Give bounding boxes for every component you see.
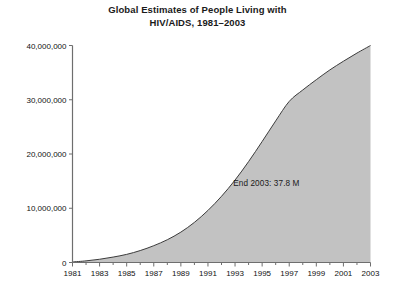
y-axis-tick-label: 40,000,000: [26, 41, 66, 50]
area-series-group: [73, 46, 371, 263]
x-axis-tick-label: 1983: [91, 269, 109, 278]
x-axis-tick-label: 1993: [226, 269, 244, 278]
x-axis-tick-label: 1989: [172, 269, 190, 278]
y-axis-tick-label: 20,000,000: [26, 150, 66, 159]
x-axis-tick-label: 1987: [145, 269, 163, 278]
y-axis-tick-label: 10,000,000: [26, 204, 66, 213]
chart-figure: Global Estimates of People Living with H…: [0, 0, 395, 289]
x-axis-tick-label: 1985: [118, 269, 136, 278]
x-axis-tick-label: 2001: [335, 269, 353, 278]
x-axis-tick-label: 2003: [362, 269, 380, 278]
x-axis-tick-label: 1997: [280, 269, 298, 278]
area-series-fill: [73, 46, 371, 263]
x-axis-tick-label: 1999: [307, 269, 325, 278]
y-axis-tick-label: 30,000,000: [26, 95, 66, 104]
y-axis-tick-label: 0: [62, 258, 66, 267]
series-annotation-label: End 2003: 37.8 M: [233, 179, 299, 188]
x-axis-tick-label: 1991: [199, 269, 217, 278]
x-axis-tick-label: 1995: [253, 269, 271, 278]
x-axis-tick-label: 1981: [64, 269, 82, 278]
